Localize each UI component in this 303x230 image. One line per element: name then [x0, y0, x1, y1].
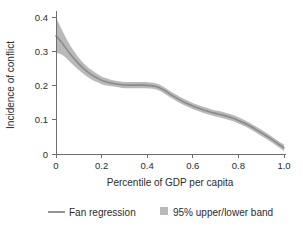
x-axis-tick-label: 1.0 [277, 160, 290, 171]
y-axis-tick-label: 0.1 [35, 114, 48, 125]
confidence-band-group [56, 17, 284, 151]
x-axis-tick-label: 0 [53, 160, 58, 171]
x-axis-tick-label: 0.8 [232, 160, 245, 171]
legend-square-swatch-icon [160, 207, 168, 215]
x-axis-title: Percentile of GDP per capita [107, 177, 234, 188]
y-axis-title: Incidence of conflict [5, 41, 16, 129]
y-axis-tick-label: 0.2 [35, 80, 48, 91]
chart-figure: 00.10.20.30.4 00.20.40.60.81.0 Percentil… [0, 0, 303, 230]
legend: Fan regression 95% upper/lower band [48, 207, 273, 218]
y-axis-tick-label: 0.4 [35, 12, 48, 23]
x-axis-tick-label: 0.4 [141, 160, 154, 171]
y-axis-tick-label: 0 [43, 149, 48, 160]
x-axis-tick-label: 0.6 [186, 160, 199, 171]
chart-canvas: 00.10.20.30.4 00.20.40.60.81.0 Percentil… [0, 0, 303, 230]
x-axis-tick-label: 0.2 [95, 160, 108, 171]
x-axis: 00.20.40.60.81.0 [53, 154, 290, 171]
confidence-band [56, 17, 284, 151]
y-axis-tick-label: 0.3 [35, 46, 48, 57]
y-axis: 00.10.20.30.4 [35, 11, 56, 160]
legend-label-fan-regression: Fan regression [69, 207, 136, 218]
legend-label-confidence-band: 95% upper/lower band [173, 207, 273, 218]
